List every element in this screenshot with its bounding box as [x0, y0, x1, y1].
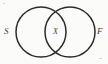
- scan-artifact-bottom-right: [99, 58, 102, 59]
- venn-label-intersection: X: [53, 28, 58, 36]
- venn-circle-left: [16, 7, 66, 57]
- venn-label-left-set: S: [4, 27, 9, 36]
- scan-artifact-top-left: [3, 3, 5, 4]
- venn-diagram-figure: S X F: [0, 0, 108, 64]
- venn-label-right-set: F: [97, 27, 103, 36]
